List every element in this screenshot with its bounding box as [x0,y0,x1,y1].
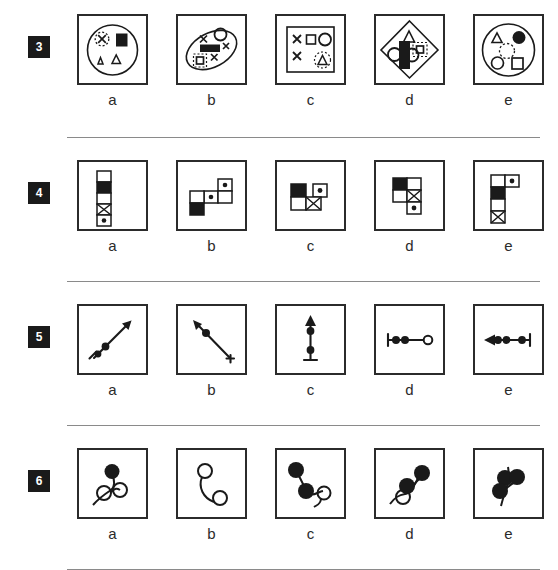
option-label-4d: d [405,238,413,256]
figure-4b[interactable] [176,160,247,231]
option-label-5b: b [207,382,215,400]
option-label-4e: e [504,238,512,256]
question-row-3: 3 a [0,0,558,138]
option-3a[interactable]: a [63,14,162,110]
option-6d[interactable]: d [360,448,459,544]
figure-3d[interactable] [374,14,445,85]
question-number-badge-5: 5 [28,326,50,348]
option-5a[interactable]: a [63,304,162,400]
option-5e[interactable]: e [459,304,558,400]
figure-4d[interactable] [374,160,445,231]
figure-5c[interactable] [275,304,346,375]
question-row-6: 6 a [0,426,558,570]
option-4b[interactable]: b [162,160,261,256]
figure-3c[interactable] [275,14,346,85]
option-label-6a: a [108,526,116,544]
figure-5a[interactable] [77,304,148,375]
figure-4c[interactable] [275,160,346,231]
option-label-3c: c [307,92,315,110]
figure-6d[interactable] [374,448,445,519]
figure-6e[interactable] [473,448,544,519]
option-6c[interactable]: c [261,448,360,544]
option-label-6e: e [504,526,512,544]
option-label-3a: a [108,92,116,110]
option-label-3b: b [207,92,215,110]
option-list-6: a b [63,448,558,544]
figure-6c[interactable] [275,448,346,519]
figure-3b[interactable] [176,14,247,85]
option-label-3d: d [405,92,413,110]
figure-3a[interactable] [77,14,148,85]
option-4c[interactable]: c [261,160,360,256]
option-label-5c: c [307,382,315,400]
figure-5b[interactable] [176,304,247,375]
figure-4a[interactable] [77,160,148,231]
option-label-3e: e [504,92,512,110]
figure-5e[interactable] [473,304,544,375]
option-label-6d: d [405,526,413,544]
option-5b[interactable]: b [162,304,261,400]
question-row-4: 4 [0,138,558,282]
option-list-3: a b [63,14,558,110]
option-6e[interactable]: e [459,448,558,544]
option-label-6c: c [307,526,315,544]
option-6b[interactable]: b [162,448,261,544]
option-label-4c: c [307,238,315,256]
option-label-5a: a [108,382,116,400]
option-label-4a: a [108,238,116,256]
option-label-4b: b [207,238,215,256]
option-3e[interactable]: e [459,14,558,110]
option-label-5e: e [504,382,512,400]
option-3d[interactable]: d [360,14,459,110]
option-6a[interactable]: a [63,448,162,544]
option-4d[interactable]: d [360,160,459,256]
option-3b[interactable]: b [162,14,261,110]
figure-4e[interactable] [473,160,544,231]
question-row-5: 5 [0,282,558,426]
option-label-5d: d [405,382,413,400]
figure-6a[interactable] [77,448,148,519]
question-number-badge-3: 3 [28,36,50,58]
figure-5d[interactable] [374,304,445,375]
option-3c[interactable]: c [261,14,360,110]
option-4e[interactable]: e [459,160,558,256]
figure-6b[interactable] [176,448,247,519]
option-5d[interactable]: d [360,304,459,400]
option-5c[interactable]: c [261,304,360,400]
option-4a[interactable]: a [63,160,162,256]
option-list-4: a [63,160,558,256]
option-label-6b: b [207,526,215,544]
figure-3e[interactable] [473,14,544,85]
option-list-5: a b [63,304,558,400]
question-number-badge-6: 6 [28,470,50,492]
question-number-badge-4: 4 [28,182,50,204]
